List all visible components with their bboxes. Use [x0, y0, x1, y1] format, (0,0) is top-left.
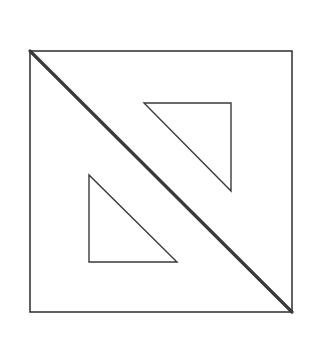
set-square-diagram	[0, 0, 309, 349]
